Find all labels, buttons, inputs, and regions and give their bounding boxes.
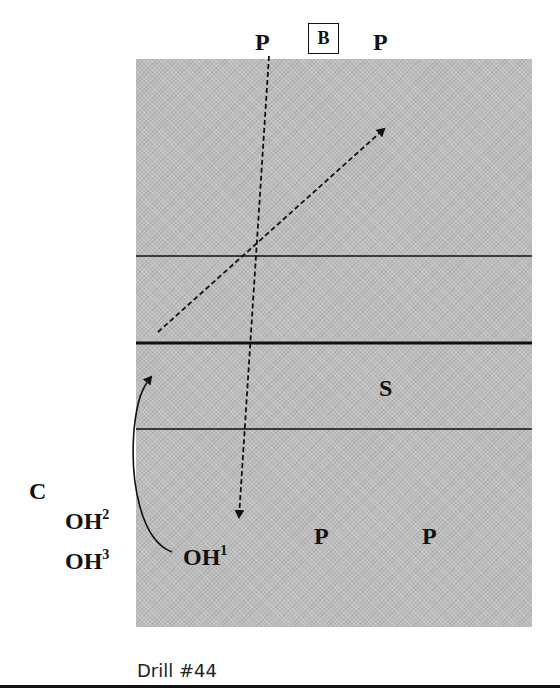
oh1-sup: 1 — [220, 543, 227, 558]
oh2-sup: 2 — [102, 507, 109, 522]
drill-caption: Drill #44 — [137, 660, 217, 681]
player-oh3: OH3 — [65, 549, 109, 573]
player-coach: C — [29, 479, 46, 503]
player-p-bottom-mid: P — [314, 524, 329, 548]
player-p-top-right: P — [373, 30, 388, 54]
court-lines-and-arrows — [0, 0, 560, 696]
player-oh2: OH2 — [65, 509, 109, 533]
ball-label: B — [317, 28, 329, 49]
drill-diagram: P B P S C OH2 OH3 OH1 P P Drill #44 — [0, 0, 560, 696]
player-p-top-left: P — [255, 30, 270, 54]
player-oh1: OH1 — [183, 545, 227, 569]
oh3-sup: 3 — [102, 547, 109, 562]
ball-box: B — [308, 23, 339, 54]
rotation-arrow-icon — [133, 377, 172, 552]
attack-arrow-icon — [158, 129, 384, 332]
player-setter: S — [379, 376, 392, 400]
bottom-divider — [0, 685, 560, 688]
pass-arrow-icon — [239, 56, 269, 517]
oh1-base: OH — [183, 544, 220, 570]
oh2-base: OH — [65, 508, 102, 534]
oh3-base: OH — [65, 548, 102, 574]
player-p-bottom-right: P — [422, 524, 437, 548]
